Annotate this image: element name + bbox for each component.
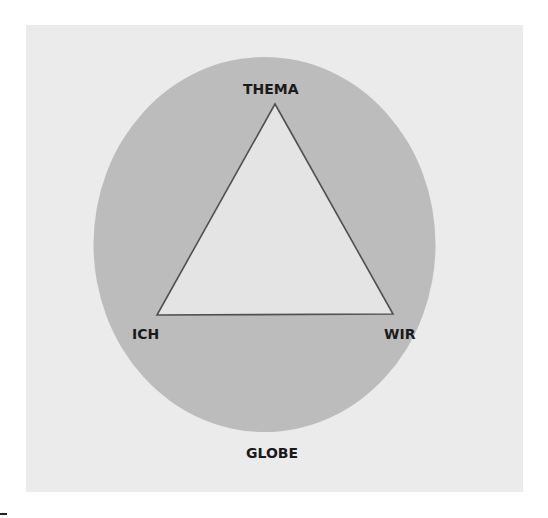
label-wir: WIR xyxy=(384,326,415,342)
label-globe: GLOBE xyxy=(246,445,298,461)
diagram-canvas xyxy=(0,0,548,518)
edge-mark xyxy=(0,513,7,515)
label-ich: ICH xyxy=(132,326,159,342)
label-thema: THEMA xyxy=(243,81,299,97)
